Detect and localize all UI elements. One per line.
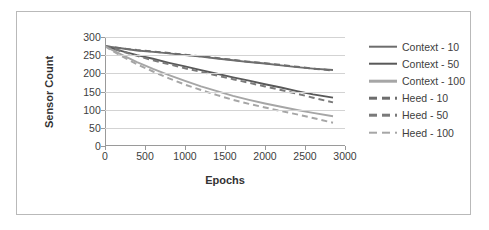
- x-axis-tick-labels: 050010001500200025003000: [105, 150, 345, 166]
- legend-item-label: Context - 10: [402, 41, 459, 53]
- y-axis-tick-label: 250: [83, 49, 101, 61]
- legend-swatch-icon: [369, 42, 397, 52]
- legend-swatch-icon: [369, 110, 397, 120]
- legend-item-label: Context - 100: [402, 75, 465, 87]
- legend-swatch-icon: [369, 76, 397, 86]
- y-axis-tick-label: 50: [89, 122, 101, 134]
- gridline: [105, 110, 345, 111]
- gridline: [105, 73, 345, 74]
- plot-area: [105, 37, 345, 146]
- legend-item-label: Heed - 50: [402, 109, 448, 121]
- chart-figure: Sensor Count 050100150200250300 05001000…: [0, 0, 489, 230]
- x-axis-tick-label: 3000: [333, 150, 356, 162]
- figure-border: Sensor Count 050100150200250300 05001000…: [16, 11, 471, 215]
- y-axis-tick: [101, 110, 105, 111]
- legend-swatch-icon: [369, 93, 397, 103]
- x-axis-tick-label: 0: [102, 150, 108, 162]
- y-axis-tick: [101, 37, 105, 38]
- legend-item-label: Heed - 100: [402, 127, 454, 139]
- x-axis-tick-label: 2000: [253, 150, 276, 162]
- series-line: [105, 46, 333, 98]
- y-axis-tick: [101, 73, 105, 74]
- chart-legend: Context - 10Context - 50Context - 100Hee…: [369, 38, 481, 141]
- legend-item[interactable]: Heed - 100: [369, 124, 481, 141]
- series-line: [105, 46, 333, 70]
- gridline: [105, 128, 345, 129]
- x-axis-title: Epochs: [105, 174, 345, 186]
- y-axis-tick-label: 100: [83, 104, 101, 116]
- legend-item-label: Heed - 10: [402, 92, 448, 104]
- y-axis-tick-label: 200: [83, 67, 101, 79]
- gridline: [105, 37, 345, 38]
- y-axis-title-label: Sensor Count: [43, 55, 55, 127]
- gridline: [105, 92, 345, 93]
- legend-item-label: Context - 50: [402, 58, 459, 70]
- y-axis-tick: [101, 55, 105, 56]
- legend-item[interactable]: Heed - 10: [369, 90, 481, 107]
- legend-item[interactable]: Context - 100: [369, 72, 481, 89]
- legend-swatch-icon: [369, 128, 397, 138]
- x-axis-tick-label: 2500: [293, 150, 316, 162]
- x-axis-tick-label: 500: [136, 150, 154, 162]
- y-axis-tick-label: 300: [83, 31, 101, 43]
- gridline: [105, 55, 345, 56]
- legend-item[interactable]: Context - 50: [369, 55, 481, 72]
- legend-item[interactable]: Heed - 50: [369, 107, 481, 124]
- y-axis-tick: [101, 128, 105, 129]
- y-axis-tick-label: 150: [83, 86, 101, 98]
- y-axis-tick-labels: 050100150200250300: [69, 37, 101, 146]
- x-axis-tick-label: 1000: [173, 150, 196, 162]
- legend-swatch-icon: [369, 59, 397, 69]
- y-axis-tick: [101, 92, 105, 93]
- y-axis-title: Sensor Count: [41, 37, 57, 146]
- x-axis-tick-label: 1500: [213, 150, 236, 162]
- legend-item[interactable]: Context - 10: [369, 38, 481, 55]
